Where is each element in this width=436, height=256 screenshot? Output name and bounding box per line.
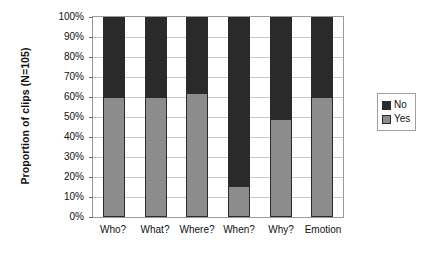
stacked-bar[interactable] [103, 17, 125, 217]
stacked-bar[interactable] [145, 17, 167, 217]
legend-swatch-icon [382, 115, 391, 124]
bar-segment-no [312, 18, 332, 97]
y-axis-tick-label: 60% [64, 91, 84, 102]
legend-item[interactable]: Yes [382, 112, 410, 126]
y-axis-tick-label: 80% [64, 51, 84, 62]
bar-segment-yes [146, 97, 166, 216]
y-axis-tick-label: 50% [64, 111, 84, 122]
y-axis-tick-mark [89, 217, 93, 218]
legend-item-label: No [394, 100, 407, 110]
bar-segment-yes [187, 93, 207, 216]
stacked-bar[interactable] [228, 17, 250, 217]
x-axis-tick-label: What? [134, 224, 176, 235]
x-axis-tick-label: Where? [176, 224, 218, 235]
x-axis-tick-label: Why? [260, 224, 302, 235]
bar-slot [301, 17, 343, 217]
bar-segment-yes [271, 119, 291, 216]
bar-slot [135, 17, 177, 217]
plot-area [92, 16, 344, 218]
y-axis-tick-label: 100% [58, 11, 84, 22]
bar-segment-no [146, 18, 166, 97]
legend-item[interactable]: No [382, 98, 410, 112]
stacked-bar[interactable] [186, 17, 208, 217]
bar-slot [93, 17, 135, 217]
y-axis-title: Proportion of clips (N=105) [14, 10, 36, 222]
x-axis-tick-labels: Who?What?Where?When?Why?Emotion [92, 224, 344, 235]
stacked-bar-chart: Proportion of clips (N=105) 0%10%20%30%4… [0, 0, 436, 256]
bar-slot [176, 17, 218, 217]
y-axis-tick-label: 0% [70, 211, 84, 222]
x-axis-tick-label: Who? [92, 224, 134, 235]
y-axis-tick-label: 90% [64, 31, 84, 42]
y-axis-tick-label: 10% [64, 191, 84, 202]
bar-segment-yes [104, 97, 124, 216]
x-axis-tick-label: When? [218, 224, 260, 235]
bar-slot [260, 17, 302, 217]
y-axis-tick-label: 30% [64, 151, 84, 162]
bars-layer [93, 17, 343, 217]
bar-segment-no [187, 18, 207, 93]
x-axis-tick-label: Emotion [302, 224, 344, 235]
y-axis-tick-labels: 0%10%20%30%40%50%60%70%80%90%100% [38, 16, 88, 216]
stacked-bar[interactable] [270, 17, 292, 217]
y-axis-title-text: Proportion of clips (N=105) [19, 47, 31, 184]
stacked-bar[interactable] [311, 17, 333, 217]
bar-slot [218, 17, 260, 217]
chart-legend: NoYes [377, 93, 416, 131]
y-axis-tick-label: 40% [64, 131, 84, 142]
legend-item-label: Yes [394, 114, 410, 124]
y-axis-tick-label: 20% [64, 171, 84, 182]
bar-segment-yes [229, 186, 249, 216]
bar-segment-no [104, 18, 124, 97]
bar-segment-no [229, 18, 249, 186]
y-axis-tick-label: 70% [64, 71, 84, 82]
bar-segment-yes [312, 97, 332, 216]
legend-swatch-icon [382, 101, 391, 110]
bar-segment-no [271, 18, 291, 119]
